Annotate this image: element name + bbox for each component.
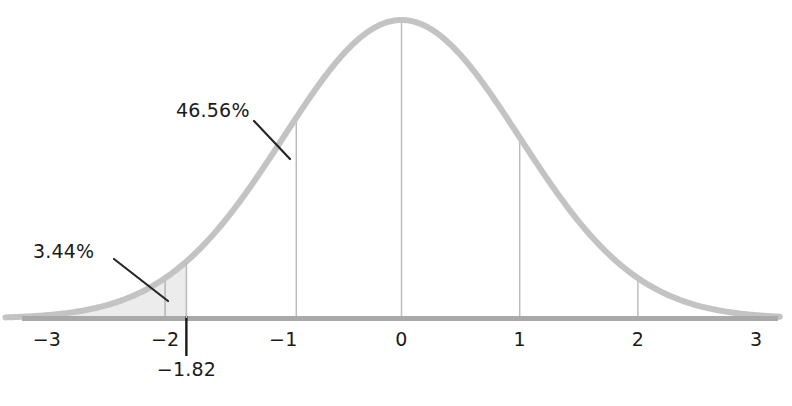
normal-distribution-chart: 3.44% 46.56% −1.82 −3 −2 −1 0 1 2 3	[0, 0, 792, 406]
x-tick-label-neg1: −1	[269, 328, 297, 350]
dropline-group	[165, 20, 638, 319]
x-tick-label-3: 3	[750, 328, 762, 350]
body-percent-label: 46.56%	[176, 99, 250, 121]
x-tick-label-1: 1	[514, 328, 526, 350]
bell-curve-path	[6, 20, 780, 317]
tail-percent-label: 3.44%	[33, 240, 94, 262]
x-tick-label-neg2: −2	[151, 328, 179, 350]
x-tick-label-2: 2	[632, 328, 644, 350]
x-tick-label-0: 0	[395, 328, 407, 350]
z-marker-label: −1.82	[157, 358, 216, 380]
x-tick-label-neg3: −3	[33, 328, 61, 350]
